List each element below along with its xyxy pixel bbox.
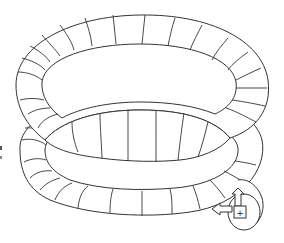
coil-illustration: + [0,0,284,243]
plus-glyph: + [236,208,244,218]
edge-mark [0,146,2,159]
coil-diagram: + [0,0,284,243]
